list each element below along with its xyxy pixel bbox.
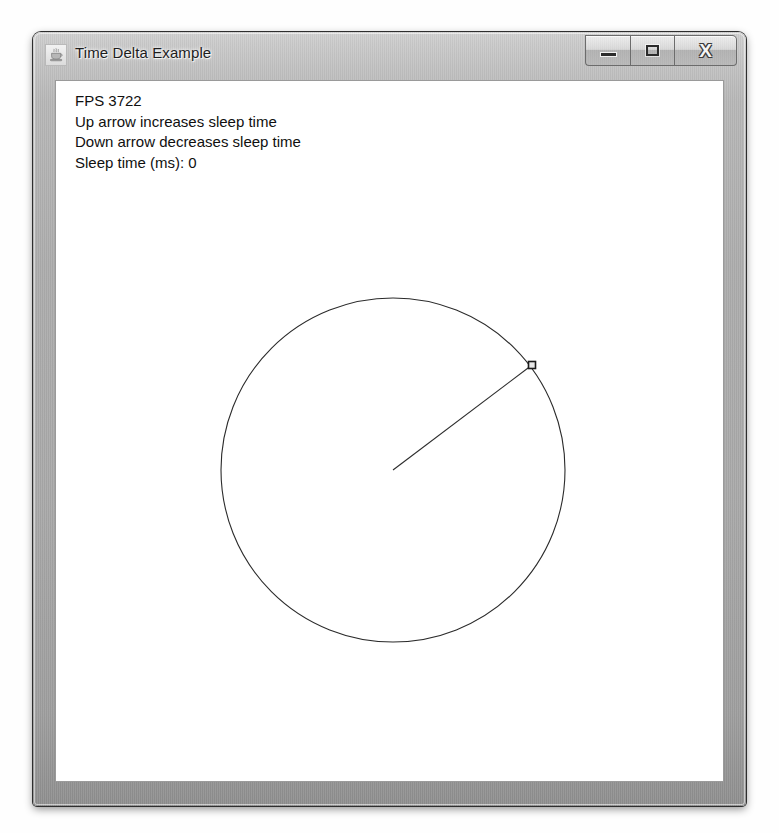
window-title: Time Delta Example <box>75 44 211 61</box>
title-bar[interactable]: Time Delta Example X <box>33 32 746 79</box>
minimize-icon <box>600 52 617 57</box>
rotating-hand-line <box>393 365 532 470</box>
caption-button-group: X <box>585 35 737 66</box>
status-line-down-arrow: Down arrow decreases sleep time <box>75 132 301 153</box>
java-coffee-cup-icon <box>45 44 67 66</box>
desktop-background: Time Delta Example X FPS <box>0 0 779 833</box>
hand-endpoint-marker <box>529 362 536 369</box>
status-text-block: FPS 3722 Up arrow increases sleep time D… <box>75 91 301 173</box>
maximize-icon <box>646 45 659 56</box>
close-icon: X <box>699 41 712 60</box>
application-window: Time Delta Example X FPS <box>33 32 746 806</box>
status-line-up-arrow: Up arrow increases sleep time <box>75 112 301 133</box>
close-button[interactable]: X <box>675 35 737 66</box>
maximize-button[interactable] <box>630 35 675 66</box>
minimize-button[interactable] <box>585 35 630 66</box>
client-area: FPS 3722 Up arrow increases sleep time D… <box>55 80 724 782</box>
animation-canvas <box>56 81 724 782</box>
status-line-sleep-time: Sleep time (ms): 0 <box>75 153 301 174</box>
status-line-fps: FPS 3722 <box>75 91 301 112</box>
